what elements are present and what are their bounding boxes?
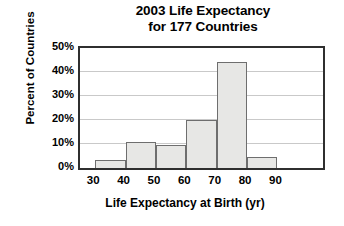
chart-figure: 2003 Life Expectancy for 177 Countries P… [0,0,344,226]
chart-title: 2003 Life Expectancy for 177 Countries [72,3,334,34]
bar-40-50 [126,142,156,168]
y-tick-label: 40% [34,65,74,76]
plot-area [78,46,325,170]
y-tick-label: 50% [34,41,74,52]
chart-title-line-2: for 177 Countries [72,19,334,35]
gridline [80,95,323,96]
gridline [80,71,323,72]
x-axis-title: Life Expectancy at Birth (yr) [40,196,330,210]
x-tick-label: 30 [76,174,110,187]
x-axis-tick-labels: 30405060708090 [0,174,344,190]
plot-inner [80,48,323,168]
y-tick-label: 20% [34,113,74,124]
bar-60-70 [186,120,216,168]
y-tick-label: 10% [34,137,74,148]
x-tick-label: 50 [137,174,171,187]
chart-title-line-1: 2003 Life Expectancy [72,3,334,19]
y-tick-label: 0% [34,161,74,172]
bar-70-80 [217,62,247,168]
bar-30-40 [95,160,125,168]
x-tick-label: 70 [198,174,232,187]
x-tick-label: 90 [258,174,292,187]
bar-80-90 [247,157,277,168]
bar-50-60 [156,145,186,168]
x-tick-label: 80 [228,174,262,187]
y-axis-tick-labels: 0%10%20%30%40%50% [34,0,74,226]
x-tick-label: 40 [107,174,141,187]
y-tick-label: 30% [34,89,74,100]
x-tick-label: 60 [167,174,201,187]
